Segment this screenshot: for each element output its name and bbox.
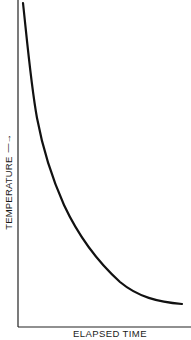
temperature-decay-curve (23, 3, 182, 304)
y-axis-label-text: TEMPERATURE (3, 157, 14, 230)
y-axis-label: TEMPERATURE —→ (2, 122, 14, 242)
arrow-up-icon: —→ (3, 134, 13, 152)
x-axis-label: ELAPSED TIME (60, 328, 160, 339)
